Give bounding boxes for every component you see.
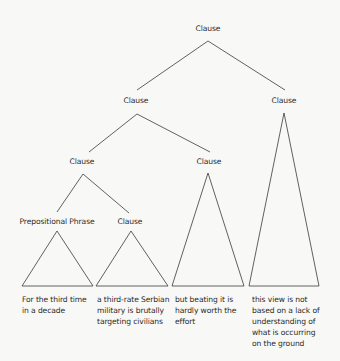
leaf-line: what is occurring [252, 327, 332, 338]
node-root-clause: Clause [196, 24, 221, 34]
node-l4-clause: Clause [118, 217, 143, 227]
triangle-l3-right-clause [172, 173, 244, 286]
edge-root-l2right [208, 41, 285, 90]
edge-l2left-l3right [137, 114, 210, 152]
leaf-line: military is brutally [97, 305, 177, 316]
node-l2-right-clause: Clause [272, 96, 297, 106]
node-l2-left-clause: Clause [124, 96, 149, 106]
edge-l3left-l4left [57, 174, 83, 212]
leaf-text-4: this view is not based on a lack of unde… [252, 294, 332, 349]
leaf-line: but beating it is [175, 294, 255, 305]
edge-l3left-l4right [83, 174, 129, 213]
leaf-line: this view is not [252, 294, 332, 305]
leaf-text-2: a third-rate Serbian military is brutall… [97, 294, 177, 327]
node-l3-left-clause: Clause [70, 157, 95, 167]
leaf-line: hardly worth the [175, 305, 255, 316]
leaf-line: a third-rate Serbian [97, 294, 177, 305]
triangle-l2-right-clause [249, 113, 319, 286]
node-l4-prepositional-phrase: Prepositional Phrase [19, 217, 94, 227]
leaf-line: on the ground [252, 338, 332, 349]
leaf-line: For the third time [22, 294, 102, 305]
leaf-line: effort [175, 316, 255, 327]
edge-root-l2left [137, 41, 208, 90]
triangle-prepositional-phrase [22, 231, 93, 286]
triangle-l4-clause [96, 231, 168, 286]
leaf-text-1: For the third time in a decade [22, 294, 102, 316]
edge-l2left-l3left [89, 114, 137, 152]
node-l3-right-clause: Clause [197, 157, 222, 167]
leaf-line: in a decade [22, 305, 102, 316]
leaf-line: understanding of [252, 316, 332, 327]
leaf-text-3: but beating it is hardly worth the effor… [175, 294, 255, 327]
leaf-line: based on a lack of [252, 305, 332, 316]
leaf-line: targeting civilians [97, 316, 177, 327]
